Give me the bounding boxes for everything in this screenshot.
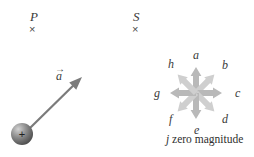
compass-label-c: c (235, 87, 240, 99)
caption-text: zero magnitude (172, 133, 243, 145)
compass-label-a: a (193, 49, 199, 61)
charged-sphere: + (11, 123, 33, 145)
compass-label-h: h (168, 58, 174, 70)
compass-arrows (170, 67, 222, 119)
point-label-p: P (30, 10, 38, 23)
compass-label-g: g (154, 87, 160, 99)
acceleration-vector-label: → a (56, 70, 62, 82)
acceleration-arrow (30, 77, 82, 128)
compass-label-d: d (222, 113, 228, 125)
point-label-s: S (133, 10, 140, 23)
positive-charge-sign: + (19, 128, 25, 140)
physics-figure: + P × S × → a a b c d e f g h j zero mag… (0, 0, 254, 157)
acceleration-arrow-shaft (30, 84, 75, 128)
zero-magnitude-caption: j zero magnitude (166, 134, 243, 146)
vector-overarrow-icon: → (55, 64, 65, 74)
compass-label-b: b (222, 59, 228, 71)
compass-label-f: f (169, 113, 172, 125)
point-marker-s: × (132, 24, 138, 35)
point-marker-p: × (29, 24, 35, 35)
